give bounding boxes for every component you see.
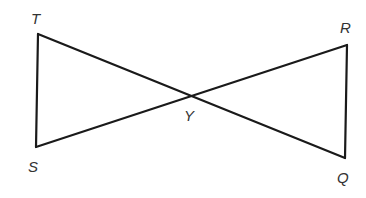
label-s: S [28,158,38,175]
bowtie-triangles-diagram: T S Y R Q [0,0,366,198]
segment-sr [36,45,347,147]
label-r: R [340,19,351,36]
segment-rq [345,45,347,158]
label-t: T [31,10,42,27]
label-y: Y [184,107,195,124]
label-q: Q [337,169,349,186]
segment-ts [36,34,38,147]
